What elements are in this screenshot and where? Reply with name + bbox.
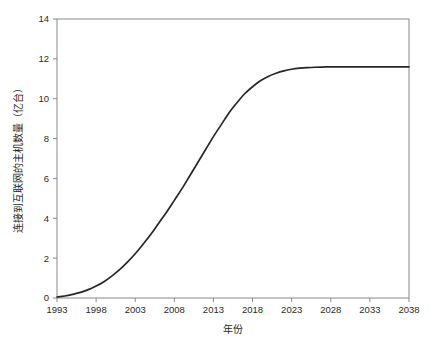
x-axis-ticks: 1993199820032008201320182023202820332038: [46, 298, 419, 315]
chart-figure: 02468101214 1993199820032008201320182023…: [0, 0, 437, 346]
plot-area-border: [57, 19, 409, 298]
y-tick-label: 2: [44, 253, 49, 264]
y-tick-label: 10: [38, 93, 49, 104]
y-tick-label: 6: [44, 173, 49, 184]
chart-canvas: 02468101214 1993199820032008201320182023…: [0, 0, 437, 346]
x-tick-label: 1993: [46, 304, 67, 315]
x-tick-label: 2038: [398, 304, 419, 315]
x-tick-label: 2008: [164, 304, 185, 315]
x-tick-label: 2028: [320, 304, 341, 315]
x-tick-label: 2003: [125, 304, 146, 315]
y-tick-label: 12: [38, 53, 49, 64]
x-tick-label: 2033: [359, 304, 380, 315]
y-axis-title: 连接到互联网的主机数量（亿台）: [12, 83, 24, 233]
x-tick-label: 1998: [86, 304, 107, 315]
x-tick-label: 2023: [281, 304, 302, 315]
y-tick-label: 8: [44, 133, 49, 144]
x-axis-title: 年份: [223, 323, 243, 335]
y-tick-label: 14: [38, 13, 49, 24]
line-series-hosts: [57, 67, 409, 297]
plot-frame: [57, 19, 409, 298]
data-series-group: [57, 67, 409, 297]
x-tick-label: 2013: [203, 304, 224, 315]
y-tick-label: 0: [44, 292, 49, 303]
x-tick-label: 2018: [242, 304, 263, 315]
y-tick-label: 4: [44, 213, 49, 224]
y-axis-ticks: 02468101214: [38, 13, 57, 303]
